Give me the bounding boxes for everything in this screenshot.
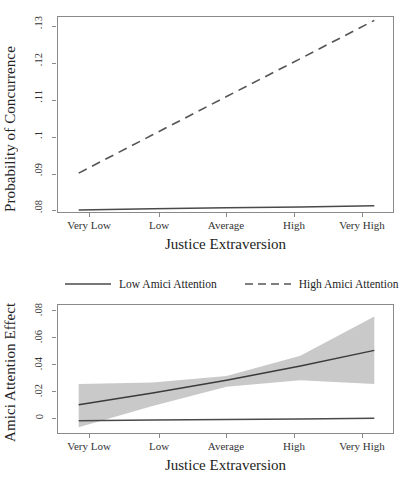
- x-axis-tick: [362, 434, 363, 438]
- x-tick-label: High: [263, 219, 325, 231]
- x-tick-label: Very High: [327, 219, 397, 231]
- confidence-band: [79, 317, 375, 428]
- series-canvas: [58, 305, 395, 435]
- figure-panel-group: Probability of Concurrence .13 .12 .11 .…: [0, 0, 407, 488]
- y-tick-label: .13: [33, 16, 44, 29]
- x-axis-title: Justice Extraversion: [57, 457, 394, 474]
- series-line: [79, 418, 375, 420]
- x-tick-label: Very Low: [56, 219, 122, 231]
- y-axis-tick: [52, 26, 56, 27]
- x-tick-label: Average: [193, 219, 259, 231]
- y-axis-title: Probability of Concurrence: [2, 14, 19, 212]
- y-tick-label: .1: [33, 131, 44, 139]
- y-axis-tick: [52, 364, 56, 365]
- y-axis-tick: [52, 391, 56, 392]
- legend-item-high-amici-attention: High Amici Attention: [245, 278, 399, 290]
- x-axis-tick: [294, 434, 295, 438]
- y-axis-tick: [52, 210, 56, 211]
- x-axis-title: Justice Extraversion: [57, 236, 394, 253]
- y-axis-tick: [52, 137, 56, 138]
- x-tick-label: Very Low: [56, 440, 122, 452]
- y-tick-label: .04: [33, 357, 44, 370]
- y-tick-label: .08: [33, 200, 44, 213]
- x-tick-label: Low: [128, 440, 190, 452]
- y-tick-label: .11: [33, 90, 44, 103]
- series-line: [79, 20, 375, 173]
- y-axis-tick: [52, 174, 56, 175]
- y-tick-label: .02: [33, 384, 44, 397]
- y-tick-label: .06: [33, 330, 44, 343]
- x-axis-tick: [294, 213, 295, 217]
- legend-key-dashed-line: [245, 279, 291, 289]
- x-axis-tick: [89, 213, 90, 217]
- x-tick-label: High: [263, 440, 325, 452]
- legend-key-solid-line: [65, 279, 111, 289]
- series-canvas: [58, 17, 395, 214]
- chart-probability-of-concurrence: Probability of Concurrence .13 .12 .11 .…: [0, 0, 407, 258]
- y-tick-label: .09: [33, 163, 44, 176]
- y-axis-tick: [52, 337, 56, 338]
- x-axis-tick: [159, 434, 160, 438]
- x-tick-label: Average: [193, 440, 259, 452]
- legend-label: Low Amici Attention: [119, 278, 217, 290]
- chart-amici-attention-effect: Amici Attention Effect .08 .06 .04 .02 0…: [0, 296, 407, 488]
- x-axis-tick: [226, 213, 227, 217]
- plot-area: [57, 304, 394, 434]
- y-tick-label: 0: [34, 414, 45, 419]
- x-axis-tick: [226, 434, 227, 438]
- x-axis-tick: [159, 213, 160, 217]
- plot-area: [57, 16, 394, 213]
- y-tick-label: .08: [33, 303, 44, 316]
- legend-item-low-amici-attention: Low Amici Attention: [65, 278, 217, 290]
- y-axis-tick: [52, 418, 56, 419]
- y-axis-tick: [52, 100, 56, 101]
- chart-legend: Low Amici Attention High Amici Attention: [57, 276, 397, 292]
- x-tick-label: Low: [128, 219, 190, 231]
- x-tick-label: Very High: [327, 440, 397, 452]
- y-axis-tick: [52, 63, 56, 64]
- y-axis-tick: [52, 310, 56, 311]
- series-line: [79, 206, 375, 210]
- y-tick-label: .12: [33, 53, 44, 66]
- y-axis-title: Amici Attention Effect: [2, 302, 19, 442]
- x-axis-tick: [362, 213, 363, 217]
- legend-label: High Amici Attention: [299, 278, 399, 290]
- x-axis-tick: [89, 434, 90, 438]
